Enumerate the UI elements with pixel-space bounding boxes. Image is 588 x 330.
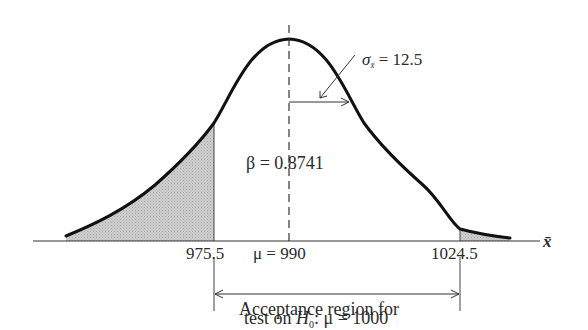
- sigma-value: = 12.5: [379, 50, 423, 69]
- left-tail-shade: [66, 123, 214, 241]
- right-critical-value: 1024.5: [431, 244, 478, 264]
- hypothesis-subscript: 0: [309, 319, 314, 330]
- acceptance-region-line2: test on H0: μ = 1000: [244, 318, 388, 321]
- sigma-pointer-line: [320, 55, 355, 98]
- acceptance-suffix: : μ = 1000: [314, 308, 388, 328]
- sigma-subscript: x̄: [370, 60, 374, 70]
- sigma-label: σx̄ = 12.5: [362, 50, 422, 70]
- hypothesis-h: H: [296, 308, 309, 328]
- x-axis-label: x̄: [543, 232, 552, 252]
- beta-label: β = 0.8741: [246, 153, 324, 174]
- left-critical-value: 975.5: [186, 244, 224, 264]
- acceptance-prefix: test on: [244, 308, 296, 328]
- mean-value-label: μ = 990: [253, 244, 306, 264]
